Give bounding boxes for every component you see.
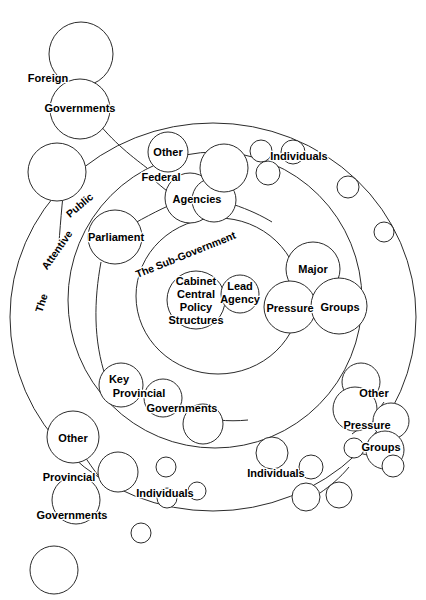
label-governments-foreign: Governments (45, 102, 116, 114)
label-provincial: Provincial (43, 471, 96, 483)
label-other-federal: Other (153, 146, 183, 158)
label-central: Central (177, 288, 215, 300)
label-ring-the: The (33, 292, 50, 314)
node-individual-bl1 (98, 452, 138, 492)
label-major: Major (298, 263, 328, 275)
node-individual-br3 (292, 483, 320, 511)
label-key: Key (109, 373, 130, 385)
node-individual-t1 (250, 140, 272, 162)
connector-parliament-to-key (96, 262, 106, 378)
connector-agencies-right (232, 204, 272, 222)
node-individual-bl2 (156, 457, 176, 477)
label-individuals-top: Individuals (270, 150, 327, 162)
label-provincial-key: Provincial (113, 387, 166, 399)
label-other-pressure-groups-pressure: Pressure (343, 419, 390, 431)
label-agencies: Agencies (173, 193, 222, 205)
label-lead: Lead (227, 280, 253, 292)
label-structures: Structures (168, 314, 223, 326)
label-policy: Policy (180, 301, 213, 313)
node-key-provincial-a (99, 363, 143, 407)
node-individual-t5 (374, 222, 394, 242)
node-individual-bl5 (131, 523, 151, 543)
policy-community-diagram: Foreign Governments The Attentive Public… (0, 0, 426, 600)
label-federal: Federal (141, 171, 180, 183)
diagram-canvas: Foreign Governments The Attentive Public… (0, 0, 426, 600)
label-cabinet: Cabinet (176, 275, 217, 287)
label-other-pressure-groups-groups: Groups (361, 441, 400, 453)
node-individual-br4 (326, 482, 352, 508)
label-other-pressure-groups-other: Other (359, 387, 389, 399)
node-other-provincial-c (30, 546, 78, 594)
node-individual-br1 (256, 437, 288, 469)
node-other-pg-f (382, 455, 404, 477)
label-foreign: Foreign (28, 72, 69, 84)
node-individual-t3 (256, 161, 280, 185)
label-governments-provincial: Governments (37, 509, 108, 521)
label-pressure: Pressure (266, 302, 313, 314)
label-other-provincial: Other (58, 432, 88, 444)
node-agencies-c (200, 144, 248, 192)
node-individual-t4 (337, 176, 359, 198)
label-agency: Agency (220, 293, 261, 305)
label-ring-attentive: Attentive (39, 228, 75, 272)
label-individuals-bottom-left: Individuals (136, 487, 193, 499)
label-individuals-bottom-right: Individuals (247, 467, 304, 479)
label-governments-key: Governments (147, 402, 218, 414)
label-groups: Groups (320, 301, 359, 313)
node-attentive-public-anchor (28, 143, 86, 201)
label-parliament: Parliament (88, 231, 145, 243)
